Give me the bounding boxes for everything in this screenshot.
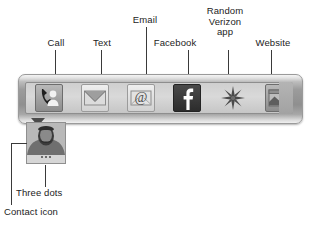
callout-label-website: Website (246, 38, 300, 49)
callout-label-contact-icon: Contact icon (4, 207, 94, 218)
dot (41, 156, 43, 158)
facebook-f-icon (173, 84, 201, 112)
action-button-website[interactable] (265, 84, 293, 112)
callout-label-text: Text (84, 38, 120, 49)
dot (49, 156, 51, 158)
action-bar-inner-tray: @ (25, 82, 293, 114)
callout-label-call: Call (38, 38, 74, 49)
action-button-facebook[interactable] (173, 84, 201, 112)
envelope-icon (81, 84, 109, 112)
leader-line-three-dots (45, 165, 46, 187)
callout-label-three-dots: Three dots (16, 188, 96, 199)
at-envelope-icon: @ (127, 84, 155, 112)
globe-window-icon (265, 84, 293, 112)
contact-thumbnail[interactable] (26, 122, 66, 164)
phone-person-icon (35, 84, 63, 112)
dot (45, 156, 47, 158)
leader-line-contact-icon-horizontal (11, 143, 27, 144)
contact-photo-image (27, 123, 65, 155)
svg-text:@: @ (135, 90, 148, 105)
callout-label-facebook: Facebook (145, 38, 205, 49)
leader-line-contact-icon-vertical (11, 143, 12, 205)
callout-label-email: Email (118, 15, 172, 26)
action-button-verizon-app[interactable] (219, 84, 247, 112)
starburst-icon (219, 84, 247, 112)
callout-label-verizon-app: Random Verizon app (200, 6, 250, 38)
annotated-figure: Call Text Email Facebook Random Verizon … (0, 0, 320, 225)
contact-photo (27, 123, 65, 155)
action-button-call[interactable] (35, 84, 63, 112)
three-dots-indicator[interactable] (27, 153, 65, 161)
action-button-text[interactable] (81, 84, 109, 112)
action-button-email[interactable]: @ (127, 84, 155, 112)
contact-action-bar[interactable]: @ (18, 74, 303, 124)
